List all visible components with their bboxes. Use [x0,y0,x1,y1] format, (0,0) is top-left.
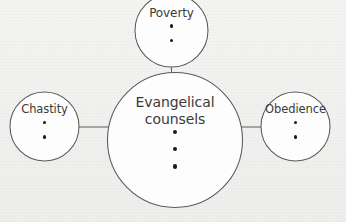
bullet-dot [170,39,174,43]
node-obedience[interactable]: Obedience [261,92,330,161]
node-center[interactable]: Evangelical counsels [107,72,243,208]
node-center-label: Evangelical counsels [123,94,227,127]
diagram-canvas: Evangelical counsels Poverty Chastity [0,0,346,222]
node-poverty[interactable]: Poverty [135,0,208,67]
bullet-dot [43,121,47,125]
node-chastity-label: Chastity [21,103,68,117]
node-obedience-bullets [294,121,298,150]
bullet-dot [173,147,177,151]
node-label-layer: Evangelical counsels Poverty Chastity [0,0,346,222]
bullet-dot [294,121,298,125]
bullet-dot [170,24,174,28]
node-chastity[interactable]: Chastity [10,92,79,161]
node-center-label-line1: Evangelical [136,94,215,110]
bullet-dot [294,135,298,139]
node-poverty-bullets [170,24,174,53]
node-poverty-label: Poverty [149,6,194,20]
node-chastity-bullets [43,121,47,150]
bullet-dot [43,135,47,139]
node-center-bullets [173,130,177,182]
bullet-dot [173,130,177,134]
node-obedience-label: Obedience [265,103,326,117]
bullet-dot [173,164,177,168]
node-center-label-line2: counsels [145,111,205,127]
